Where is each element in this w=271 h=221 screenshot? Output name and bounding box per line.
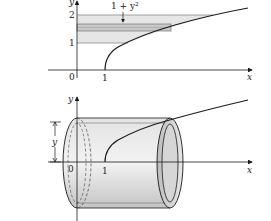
top-y-axis-label: y [68, 0, 75, 7]
bottom-x-axis-label: x [247, 165, 252, 175]
top-x-axis-label: x [247, 72, 252, 82]
radius-label: y [51, 137, 58, 147]
bottom-origin-label: 0 [68, 164, 74, 174]
shell-right-inner [162, 124, 178, 202]
top-y-tick-2: 2 [69, 10, 75, 20]
bottom-graph: y x 0 1 y [48, 94, 252, 221]
top-x-tick-1: 1 [102, 73, 108, 83]
shell-body [63, 118, 170, 208]
bottom-x-tick-1: 1 [102, 166, 108, 176]
bottom-y-axis-label: y [67, 94, 74, 104]
shell-method-figure: 1 + y² y x 0 1 2 1 y x 0 1 [0, 0, 271, 221]
strip-length-label: 1 + y² [111, 1, 139, 11]
top-graph: 1 + y² y x 0 1 2 1 [48, 0, 252, 83]
top-y-tick-1: 1 [69, 38, 75, 48]
top-origin-label: 0 [69, 72, 75, 82]
